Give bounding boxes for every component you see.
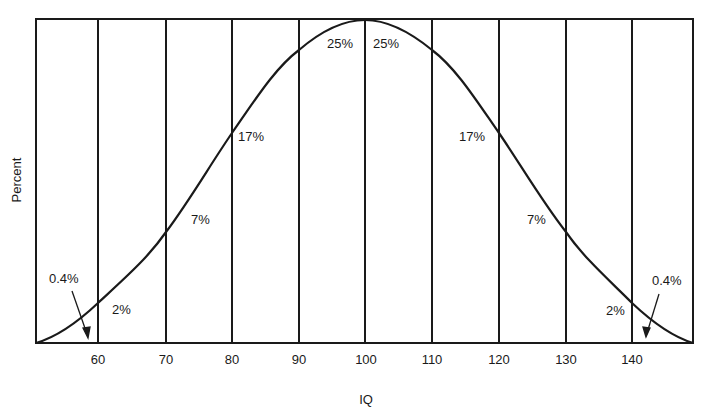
tick-130: 130 xyxy=(555,352,577,367)
label-band-100-110: 25% xyxy=(373,36,399,51)
label-band-right-04: 0.4% xyxy=(652,273,682,288)
label-band-left-04: 0.4% xyxy=(49,271,79,286)
x-axis-ticks: 60 70 80 90 100 110 120 130 140 xyxy=(91,352,643,367)
tick-110: 110 xyxy=(422,352,443,367)
label-band-130-140: 2% xyxy=(606,303,625,318)
tick-80: 80 xyxy=(225,352,239,367)
label-band-60-70: 2% xyxy=(112,302,131,317)
x-axis-title: IQ xyxy=(359,392,373,407)
tick-70: 70 xyxy=(159,352,173,367)
vertical-gridlines xyxy=(98,19,632,343)
arrow-left-04 xyxy=(72,291,90,338)
y-axis-title: Percent xyxy=(9,157,24,202)
tick-140: 140 xyxy=(621,352,643,367)
label-band-70-80: 7% xyxy=(191,212,210,227)
label-band-120-130: 7% xyxy=(527,212,546,227)
iq-distribution-chart: 0.4% 2% 7% 17% 25% 25% 17% 7% 2% 0.4% 60… xyxy=(0,0,707,419)
label-band-110-120: 17% xyxy=(459,129,485,144)
label-band-90-100: 25% xyxy=(327,36,353,51)
tick-120: 120 xyxy=(488,352,510,367)
tick-100: 100 xyxy=(355,352,377,367)
label-band-80-90: 17% xyxy=(238,129,264,144)
tick-90: 90 xyxy=(292,352,306,367)
tick-60: 60 xyxy=(91,352,105,367)
